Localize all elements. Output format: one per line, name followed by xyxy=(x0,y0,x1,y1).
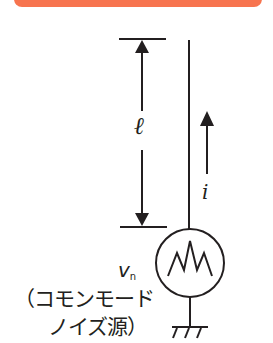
ground-hatch xyxy=(185,328,189,338)
source-voltage-symbol: v xyxy=(118,258,130,282)
arrowhead-up-icon xyxy=(135,40,149,53)
noise-source-circle xyxy=(156,229,224,297)
noise-zigzag-icon xyxy=(168,241,212,276)
source-description-line2: ノイズ源） xyxy=(48,310,147,340)
length-label: ℓ xyxy=(134,112,144,140)
arrowhead-down-icon xyxy=(135,213,149,226)
current-label: i xyxy=(202,180,208,204)
source-voltage-label: vn xyxy=(118,258,136,282)
current-arrowhead-icon xyxy=(200,111,214,126)
source-description-line1: （コモンモード xyxy=(14,282,154,312)
ground-hatch xyxy=(197,328,201,338)
source-voltage-subscript: n xyxy=(130,271,136,282)
ground-hatch xyxy=(173,328,177,338)
